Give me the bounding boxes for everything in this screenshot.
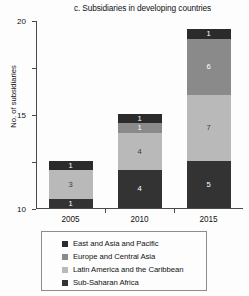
bar-segment[interactable]: 1	[118, 114, 162, 123]
bar-2005[interactable]: 131	[49, 161, 93, 208]
legend-label: Latin America and the Caribbean	[73, 265, 183, 274]
bar-segment-value: 7	[206, 124, 210, 132]
bar-2015[interactable]: 1675	[187, 29, 231, 208]
bar-segment-value: 1	[68, 200, 72, 208]
y-axis-line	[36, 21, 37, 209]
bar-segment-value: 1	[68, 162, 72, 170]
legend-item[interactable]: Latin America and the Caribbean	[62, 263, 206, 276]
bar-segment-value: 1	[206, 30, 210, 38]
bar-segment[interactable]: 1	[187, 29, 231, 38]
x-tick-mark	[174, 209, 175, 213]
bar-segment-value: 1	[137, 124, 141, 132]
legend-item[interactable]: Europe and Central Asia	[62, 250, 206, 263]
bar-segment-value: 4	[137, 148, 141, 156]
bar-segment[interactable]: 5	[187, 161, 231, 208]
bar-segment[interactable]: 1	[49, 199, 93, 208]
x-tick-label-2005: 2005	[61, 215, 79, 224]
legend-item[interactable]: Sub-Saharan Africa	[62, 276, 206, 289]
y-tick-mark: 5	[32, 162, 36, 163]
bar-segment-value: 6	[206, 63, 210, 71]
legend-swatch-icon	[62, 241, 68, 247]
bar-segment[interactable]: 4	[118, 170, 162, 208]
bar-segment[interactable]: 4	[118, 133, 162, 171]
bar-segment[interactable]: 3	[49, 170, 93, 198]
y-axis-title: No. of subsidiaries	[9, 57, 18, 137]
legend-swatch-icon	[62, 267, 68, 273]
bar-segment-value: 5	[206, 181, 210, 189]
bar-segment-value: 4	[137, 185, 141, 193]
y-tick-label: 15	[17, 111, 26, 120]
y-tick-mark: 10	[32, 115, 36, 116]
y-tick-mark: 0	[32, 209, 36, 210]
legend-label: Sub-Saharan Africa	[73, 278, 139, 287]
x-tick-mark	[105, 209, 106, 213]
bar-2010[interactable]: 1144	[118, 114, 162, 208]
legend-label: East and Asia and Pacific	[73, 239, 159, 248]
x-axis-line	[36, 208, 243, 209]
x-tick-label-2010: 2010	[130, 215, 148, 224]
y-tick-label: 10	[17, 205, 26, 214]
y-tick-mark: 15	[32, 68, 36, 69]
legend-label: Europe and Central Asia	[73, 252, 155, 261]
bar-segment[interactable]: 6	[187, 39, 231, 95]
legend-item[interactable]: East and Asia and Pacific	[62, 237, 206, 250]
legend-swatch-icon	[62, 254, 68, 260]
y-tick-mark: 20	[32, 21, 36, 22]
chart-container: c. Subsidiaries in developing countries …	[0, 0, 249, 296]
x-tick-label-2015: 2015	[199, 215, 217, 224]
bar-segment-value: 1	[137, 115, 141, 123]
bar-segment[interactable]: 1	[49, 161, 93, 170]
legend-swatch-icon	[62, 280, 68, 286]
plot-area: 05101520 200520102015 13111441675	[36, 21, 243, 209]
y-tick-label: 20	[17, 17, 26, 26]
bar-segment[interactable]: 7	[187, 95, 231, 161]
chart-legend: East and Asia and PacificEurope and Cent…	[41, 231, 207, 291]
bar-segment[interactable]: 1	[118, 123, 162, 132]
bar-segment-value: 3	[68, 181, 72, 189]
chart-title: c. Subsidiaries in developing countries	[40, 3, 245, 13]
